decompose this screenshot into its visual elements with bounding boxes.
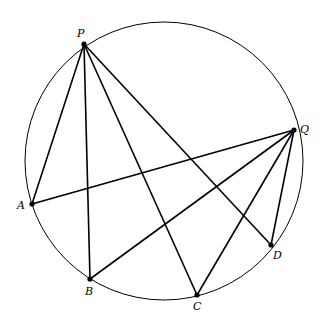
segment-PC bbox=[84, 44, 197, 295]
label-D: D bbox=[272, 249, 282, 262]
point-P bbox=[81, 41, 86, 46]
label-Q: Q bbox=[300, 123, 309, 136]
label-P: P bbox=[76, 27, 85, 40]
point-C bbox=[194, 292, 199, 297]
point-D bbox=[268, 242, 273, 247]
point-A bbox=[29, 201, 34, 206]
segment-QC bbox=[197, 130, 294, 295]
points bbox=[29, 41, 296, 297]
cyclic-geometry-diagram: PQABCD bbox=[0, 0, 322, 322]
segment-QA bbox=[32, 130, 294, 204]
segment-QB bbox=[90, 130, 294, 279]
segment-PA bbox=[32, 44, 84, 204]
label-A: A bbox=[16, 199, 25, 212]
segments bbox=[32, 44, 294, 295]
label-C: C bbox=[193, 300, 202, 313]
label-B: B bbox=[84, 285, 93, 298]
segment-PB bbox=[84, 44, 90, 279]
circumcircle bbox=[25, 22, 303, 300]
point-labels: PQABCD bbox=[16, 27, 309, 313]
point-B bbox=[87, 276, 92, 281]
point-Q bbox=[291, 127, 296, 132]
segment-QD bbox=[271, 130, 294, 245]
